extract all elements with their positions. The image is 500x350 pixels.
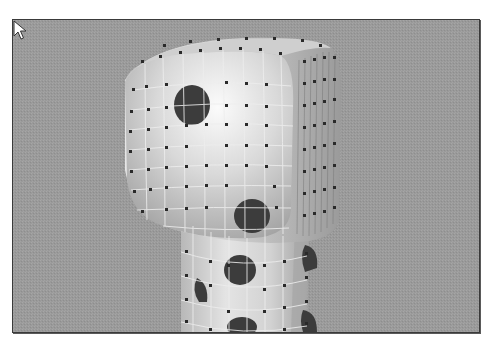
- 3d-viewport[interactable]: [12, 19, 480, 333]
- model-render: [13, 20, 479, 332]
- mouse-cursor-icon: [13, 20, 29, 42]
